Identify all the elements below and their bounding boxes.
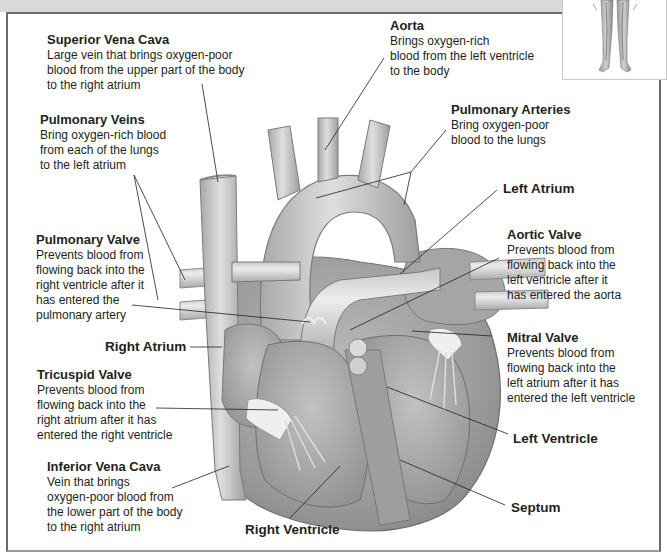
label-pulmonary-valve: Pulmonary Valve Prevents blood from flow… xyxy=(36,232,145,323)
label-left-ventricle: Left Ventricle xyxy=(513,431,598,447)
label-pulmonary-veins: Pulmonary Veins Bring oxygen-rich blood … xyxy=(40,112,166,173)
label-inferior-vena-cava: Inferior Vena Cava Vein that brings oxyg… xyxy=(47,459,182,535)
human-body-legs-icon xyxy=(563,0,667,80)
label-aorta: Aorta Brings oxygen-rich blood from the … xyxy=(390,18,534,79)
label-superior-vena-cava: Superior Vena Cava Large vein that bring… xyxy=(47,32,244,93)
label-septum: Septum xyxy=(511,500,561,516)
label-aortic-valve: Aortic Valve Prevents blood from flowing… xyxy=(507,227,621,303)
label-right-atrium: Right Atrium xyxy=(105,339,186,355)
label-right-ventricle: Right Ventricle xyxy=(245,522,340,538)
label-left-atrium: Left Atrium xyxy=(503,181,575,197)
label-pulmonary-arteries: Pulmonary Arteries Bring oxygen-poor blo… xyxy=(451,102,570,148)
body-inset-figure xyxy=(562,0,667,80)
label-mitral-valve: Mitral Valve Prevents blood from flowing… xyxy=(507,330,635,406)
label-tricuspid-valve: Tricuspid Valve Prevents blood from flow… xyxy=(37,367,172,443)
